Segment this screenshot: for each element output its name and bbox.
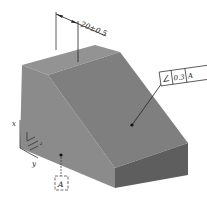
angularity-symbol-icon: ∠ xyxy=(160,72,171,86)
angularity-datum: A xyxy=(187,72,194,81)
part-body xyxy=(20,45,188,188)
datum-label: A xyxy=(57,180,64,189)
axis-x-label: x xyxy=(12,120,16,128)
dimension-text: 20±0.5 xyxy=(78,19,108,38)
axis-y-label: y xyxy=(31,160,37,168)
axis-z-label: z xyxy=(39,140,43,146)
technical-drawing: 20±0.5 ∠ 0.3 A A x y z xyxy=(0,0,207,210)
angularity-tolerance: 0.3 xyxy=(173,73,186,83)
